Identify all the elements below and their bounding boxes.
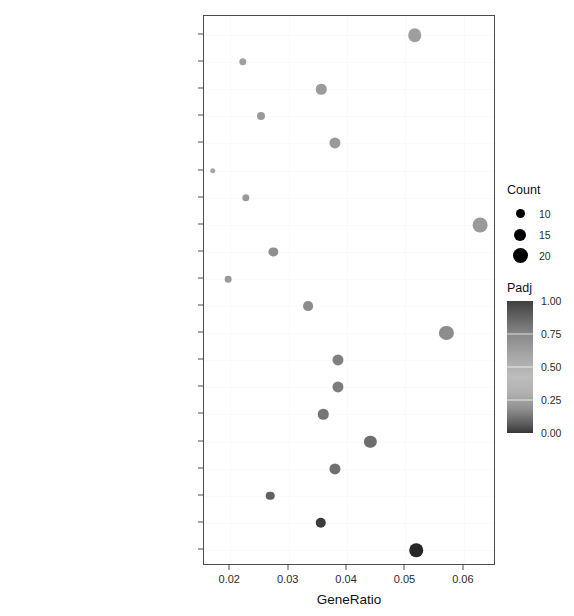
- count-legend-dot: [507, 209, 533, 218]
- data-point[interactable]: [239, 58, 246, 65]
- gridline-vertical: [289, 16, 290, 564]
- y-axis: Proteoglycans in cancerArginine and prol…: [0, 0, 203, 616]
- count-legend-entries: 101520: [507, 203, 551, 266]
- gridline-horizontal: [204, 143, 494, 144]
- data-point[interactable]: [333, 382, 344, 393]
- y-tick-mark: [198, 223, 203, 224]
- gridline-vertical: [464, 16, 465, 564]
- data-point[interactable]: [409, 543, 423, 557]
- padj-tick-label: 0.50: [541, 361, 561, 373]
- x-tick-mark: [287, 565, 288, 570]
- padj-legend: Padj 1.000.750.500.250.00: [507, 281, 571, 433]
- chart-root: Proteoglycans in cancerArginine and prol…: [0, 0, 574, 616]
- gridline-horizontal: [204, 469, 494, 470]
- y-tick-mark: [198, 413, 203, 414]
- gridline-horizontal: [204, 171, 494, 172]
- y-tick-mark: [198, 386, 203, 387]
- plot-panel: [203, 15, 495, 565]
- padj-tick-label: 1.00: [541, 295, 561, 307]
- y-tick-mark: [198, 169, 203, 170]
- padj-tick-mark: [507, 367, 533, 368]
- data-point[interactable]: [329, 463, 340, 474]
- gridline-vertical: [230, 16, 231, 564]
- count-legend-dot: [507, 229, 533, 241]
- gridline-horizontal: [204, 442, 494, 443]
- y-tick-mark: [198, 142, 203, 143]
- gridline-horizontal: [204, 496, 494, 497]
- count-legend-dot: [507, 248, 533, 263]
- y-tick-mark: [198, 115, 203, 116]
- y-tick-mark: [198, 440, 203, 441]
- y-tick-mark: [198, 359, 203, 360]
- y-tick-mark: [198, 305, 203, 306]
- gridline-vertical: [347, 16, 348, 564]
- y-tick-mark: [198, 494, 203, 495]
- x-axis-title: GeneRatio: [317, 592, 382, 607]
- x-tick-mark: [229, 565, 230, 570]
- gridline-horizontal: [204, 279, 494, 280]
- padj-legend-title: Padj: [507, 281, 571, 295]
- x-axis-tick-label: 0.05: [394, 573, 415, 585]
- gridline-horizontal: [204, 225, 494, 226]
- gridline-horizontal: [204, 252, 494, 253]
- gridline-horizontal: [204, 306, 494, 307]
- padj-tick-mark: [507, 334, 533, 335]
- x-tick-mark: [462, 565, 463, 570]
- data-point[interactable]: [316, 518, 326, 528]
- x-axis-tick-label: 0.04: [335, 573, 356, 585]
- y-tick-mark: [198, 277, 203, 278]
- data-point[interactable]: [225, 276, 232, 283]
- count-legend: Count 101520: [507, 183, 551, 266]
- x-tick-mark: [346, 565, 347, 570]
- data-point[interactable]: [364, 435, 376, 447]
- data-point[interactable]: [439, 326, 453, 340]
- y-tick-mark: [198, 250, 203, 251]
- y-tick-mark: [198, 196, 203, 197]
- data-point[interactable]: [408, 28, 422, 42]
- data-point[interactable]: [269, 247, 278, 256]
- count-legend-entry: 10: [507, 203, 551, 224]
- padj-colorbar-wrap: 1.000.750.500.250.00: [507, 301, 571, 433]
- gridline-horizontal: [204, 550, 494, 551]
- count-legend-value: 10: [539, 208, 551, 220]
- x-axis-tick-label: 0.03: [277, 573, 298, 585]
- count-legend-value: 15: [539, 229, 551, 241]
- gridline-vertical: [405, 16, 406, 564]
- data-point[interactable]: [318, 409, 328, 419]
- data-point[interactable]: [242, 194, 249, 201]
- y-tick-mark: [198, 34, 203, 35]
- y-tick-mark: [198, 332, 203, 333]
- gridline-horizontal: [204, 89, 494, 90]
- padj-tick-mark: [507, 400, 533, 401]
- data-point[interactable]: [266, 491, 275, 500]
- gridline-horizontal: [204, 35, 494, 36]
- gridline-horizontal: [204, 387, 494, 388]
- count-legend-entry: 20: [507, 245, 551, 266]
- data-point[interactable]: [210, 168, 216, 174]
- gridline-horizontal: [204, 360, 494, 361]
- data-point[interactable]: [330, 138, 341, 149]
- gridline-horizontal: [204, 62, 494, 63]
- count-legend-value: 20: [539, 250, 551, 262]
- data-point[interactable]: [316, 84, 326, 94]
- y-tick-mark: [198, 521, 203, 522]
- x-axis-tick-label: 0.06: [452, 573, 473, 585]
- gridline-horizontal: [204, 523, 494, 524]
- gridline-horizontal: [204, 414, 494, 415]
- x-axis-tick-label: 0.02: [219, 573, 240, 585]
- count-legend-title: Count: [507, 183, 551, 197]
- y-tick-mark: [198, 88, 203, 89]
- gridline-horizontal: [204, 116, 494, 117]
- data-point[interactable]: [303, 301, 313, 311]
- padj-tick-label: 0.00: [541, 427, 561, 439]
- y-tick-mark: [198, 549, 203, 550]
- y-tick-mark: [198, 61, 203, 62]
- data-point[interactable]: [473, 217, 488, 232]
- y-tick-mark: [198, 467, 203, 468]
- x-tick-mark: [404, 565, 405, 570]
- padj-tick-label: 0.25: [541, 394, 561, 406]
- data-point[interactable]: [333, 355, 344, 366]
- data-point[interactable]: [257, 112, 265, 120]
- padj-tick-label: 0.75: [541, 328, 561, 340]
- count-legend-entry: 15: [507, 224, 551, 245]
